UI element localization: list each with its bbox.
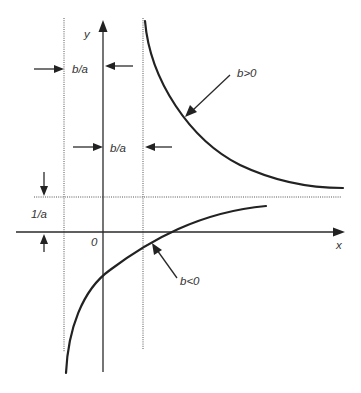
upper-curve-callout: b>0	[185, 67, 257, 117]
right-gap-label: b/a	[110, 142, 126, 154]
y-axis-label: y	[83, 28, 91, 40]
left-gap-dimension: b/a	[34, 62, 133, 75]
height-label: 1/a	[31, 208, 47, 220]
upper-curve	[145, 21, 343, 188]
arrow-right-icon	[54, 65, 64, 73]
x-axis-arrowhead-icon	[333, 228, 345, 237]
callout-arrow-icon	[152, 243, 162, 255]
right-gap-dimension: b/a	[73, 142, 172, 154]
origin-label: 0	[91, 236, 98, 248]
hyperbola-diagram: y x 0 b/a b/a 1/a b>0 b<0	[0, 0, 361, 393]
arrow-right-icon	[93, 143, 103, 151]
arrow-down-icon	[40, 186, 48, 196]
x-axis-label: x	[335, 239, 343, 251]
height-dimension: 1/a	[31, 172, 48, 252]
left-gap-label: b/a	[72, 63, 88, 75]
upper-curve-label: b>0	[237, 67, 257, 79]
arrow-up-icon	[40, 234, 48, 244]
arrow-left-icon	[105, 62, 115, 70]
lower-curve-label: b<0	[180, 275, 200, 287]
y-axis	[99, 20, 108, 372]
lower-curve	[66, 206, 266, 373]
y-axis-arrowhead-icon	[99, 20, 108, 32]
lower-curve-callout: b<0	[152, 243, 200, 287]
callout-arrow-icon	[185, 105, 197, 117]
arrow-left-icon	[145, 143, 155, 151]
